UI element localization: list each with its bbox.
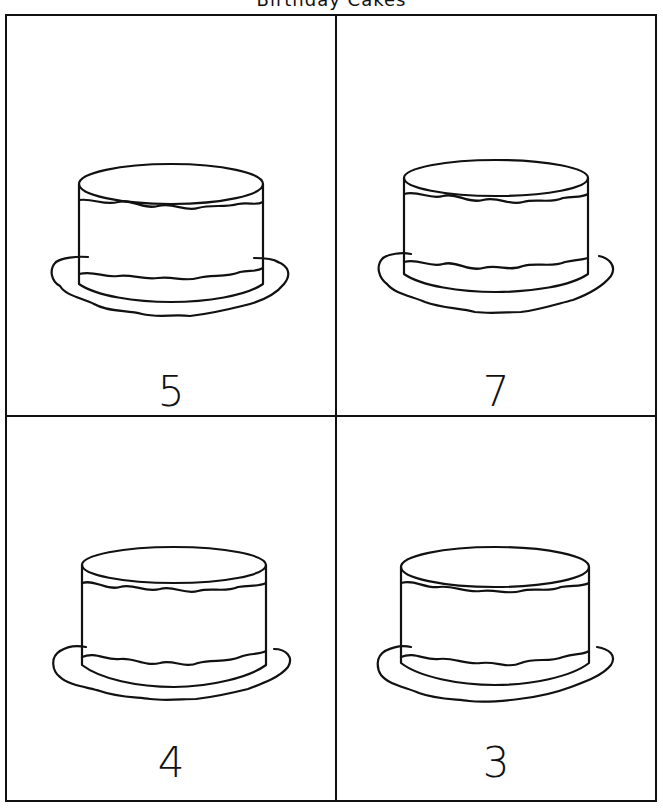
worksheet-title: Birthday Cakes	[0, 0, 663, 9]
grid-cell: 7	[337, 16, 655, 417]
grid-cell: 4	[7, 417, 337, 800]
cake-count-number: 4	[7, 742, 335, 784]
birthday-cake-icon	[371, 162, 621, 332]
grid-cell: 5	[7, 16, 337, 417]
birthday-cake-icon	[46, 162, 296, 332]
birthday-cake-icon	[46, 539, 296, 709]
worksheet-grid: 5 7 4	[5, 14, 657, 802]
cake-count-number: 3	[337, 742, 655, 784]
cake-count-number: 5	[7, 371, 335, 413]
grid-cell: 3	[337, 417, 655, 800]
birthday-cake-icon	[371, 539, 621, 709]
cake-count-number: 7	[337, 371, 655, 413]
